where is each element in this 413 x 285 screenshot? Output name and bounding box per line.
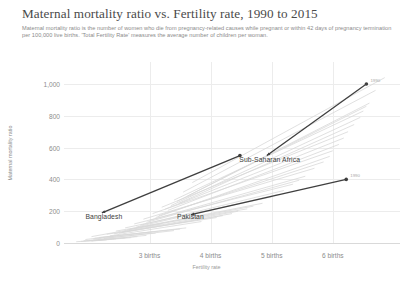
series-lines (0, 0, 413, 285)
series-label-bangladesh[interactable]: Bangladesh (85, 213, 122, 220)
year-annotation: 1990 (370, 78, 380, 83)
series-start-point[interactable] (365, 82, 369, 86)
year-annotation: 1990 (350, 173, 360, 178)
background-line (140, 191, 284, 226)
background-line (179, 125, 354, 204)
background-line (177, 106, 366, 201)
background-line (192, 78, 384, 183)
series-start-point[interactable] (344, 178, 348, 182)
background-line (183, 90, 375, 192)
chart-page: Maternal mortality ratio vs. Fertility r… (0, 0, 413, 285)
plot-area: 02004006008001,000 3 births4 births5 bir… (0, 0, 413, 285)
series-label-pakistan[interactable]: Pakistan (177, 213, 204, 220)
series-label-sub-saharan-africa[interactable]: Sub-Saharan Africa (239, 156, 300, 163)
